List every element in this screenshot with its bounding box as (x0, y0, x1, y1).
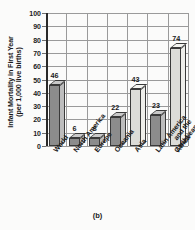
bar-value-label: 22 (111, 103, 119, 112)
y-tick-label-0: 0 (37, 143, 41, 150)
y-axis-title-line-2: (per 1,000 live births) (15, 36, 23, 128)
y-tick-label-40: 40 (33, 89, 41, 96)
gridline-90 (46, 26, 188, 27)
gridline-80 (46, 40, 188, 41)
category-separator-3 (107, 13, 108, 146)
category-separator-6 (168, 13, 169, 146)
y-tick-label-60: 60 (33, 63, 41, 70)
y-tick-label-80: 80 (33, 36, 41, 43)
gridline-40 (46, 93, 188, 94)
bar-world: 46 (49, 85, 60, 146)
y-tick-label-10: 10 (33, 129, 41, 136)
infant-mortality-bar-chart: Infant Mortality in First Year (per 1,00… (0, 0, 195, 230)
y-tick-mark-0 (42, 146, 46, 147)
gridline-100 (46, 13, 188, 14)
bar-front-face (49, 85, 60, 146)
bar-value-label: 46 (50, 71, 58, 80)
gridline-60 (46, 66, 188, 67)
bar-value-label: 23 (152, 101, 160, 110)
y-tick-label-50: 50 (33, 76, 41, 83)
y-tick-label-20: 20 (33, 116, 41, 123)
gridline-50 (46, 80, 188, 81)
y-tick-label-90: 90 (33, 23, 41, 30)
gridline-70 (46, 53, 188, 54)
y-tick-label-100: 100 (29, 10, 41, 17)
bar-value-label: 6 (73, 124, 77, 133)
y-axis-line (46, 13, 48, 146)
category-separator-4 (127, 13, 128, 146)
y-axis-title: Infant Mortality in First Year (per 1,00… (4, 8, 26, 156)
y-tick-label-30: 30 (33, 103, 41, 110)
bar-value-label: 74 (172, 34, 180, 43)
category-separator-2 (87, 13, 88, 146)
category-separator-5 (147, 13, 148, 146)
figure-caption: (b) (0, 211, 195, 220)
plot-area: 0102030405060708090100 466622432374 (46, 13, 188, 146)
y-tick-label-70: 70 (33, 49, 41, 56)
bar-value-label: 43 (132, 75, 140, 84)
